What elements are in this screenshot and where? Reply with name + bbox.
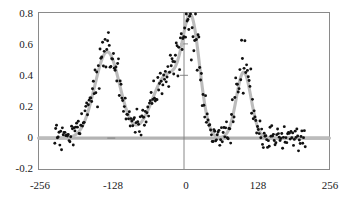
y-tick-label: 0.8 [19,7,33,19]
data-point [123,105,126,108]
data-point [250,112,253,115]
data-point [234,76,237,79]
data-point [179,36,182,39]
data-point [101,41,104,44]
data-point [180,32,183,35]
data-point [200,72,203,75]
data-point [192,35,195,38]
data-point [228,127,231,130]
data-point [187,28,190,31]
data-point [218,144,221,147]
data-point [87,103,90,106]
data-point [124,97,127,100]
data-point [285,136,288,139]
data-point [241,57,244,60]
data-point [141,109,144,112]
data-point [203,116,206,119]
x-tick-label: -128 [103,179,124,191]
data-point [152,79,155,82]
data-point [145,121,148,124]
data-point [264,134,267,137]
data-point [119,79,122,82]
data-point [263,132,266,135]
data-point [76,126,79,129]
scatter-plot-figure: 0.8 0.6 0.4 0.2 0 -0.2 -256 -128 0 128 2… [0,0,350,200]
data-point [73,129,76,132]
data-point [254,116,257,119]
data-point [97,64,100,67]
data-point [257,128,260,131]
data-point [172,73,175,76]
data-point [160,80,163,83]
data-point [249,68,252,71]
data-point [218,129,221,132]
data-point [112,52,115,55]
data-point [191,26,194,29]
data-point [256,125,259,128]
data-point [236,83,239,86]
data-point [281,147,284,150]
data-point [83,121,86,124]
data-point [224,126,227,129]
data-point [187,18,190,21]
data-point [79,132,82,135]
data-point [282,136,285,139]
data-point [209,129,212,132]
data-point [283,125,286,128]
data-point [299,142,302,145]
data-point [171,57,174,60]
data-point [121,99,124,102]
data-point [135,108,138,111]
data-point [231,98,234,101]
data-point [103,50,106,53]
data-point [100,56,103,59]
data-point [126,113,129,116]
data-point [233,116,236,119]
data-point [291,131,294,134]
data-point [216,133,219,136]
data-point [268,145,271,148]
data-point [142,116,145,119]
data-point [53,142,56,145]
data-point [96,105,99,108]
data-point [89,96,92,99]
data-point [91,87,94,90]
data-point [215,138,218,141]
data-point [177,46,180,49]
data-point [280,132,283,135]
data-point [138,130,141,133]
data-point [255,132,258,135]
data-point [243,67,246,70]
data-point [300,129,303,132]
data-point [95,71,98,74]
data-point [157,88,160,91]
data-point [192,49,195,52]
y-tick-label: 0.2 [19,100,33,112]
data-point [166,65,169,68]
data-point [84,109,87,112]
data-point [222,131,225,134]
data-point [173,60,176,63]
data-point [297,149,300,152]
data-point [233,96,236,99]
data-point [248,79,251,82]
y-tick-label: 0.6 [19,38,33,50]
data-point [165,80,168,83]
data-point [106,39,109,42]
data-point [90,100,93,103]
data-point [125,118,128,121]
data-point [151,102,154,105]
data-point [115,80,118,83]
data-point [290,136,293,139]
data-point [248,85,251,88]
data-point [227,137,230,140]
y-tick-label: 0 [28,131,34,143]
data-point [242,92,245,95]
data-point [104,66,107,69]
data-point [115,66,118,69]
data-point [54,127,57,130]
data-point [117,57,120,60]
data-point [128,110,131,113]
data-point [213,130,216,133]
data-point [63,131,66,134]
